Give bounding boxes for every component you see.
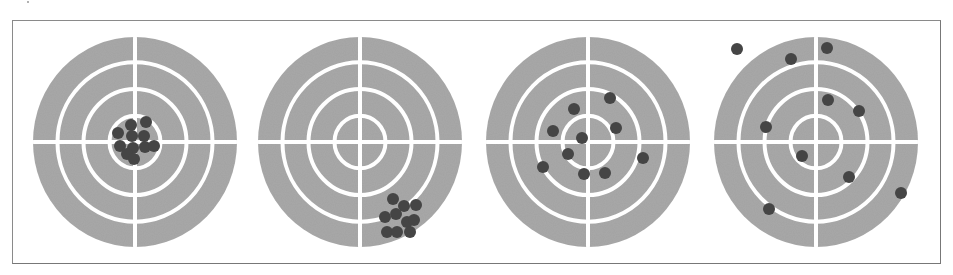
shot-hole — [760, 121, 772, 133]
shot-hole — [562, 148, 574, 160]
shot-hole — [390, 208, 402, 220]
shot-hole — [568, 103, 580, 115]
shot-hole — [547, 125, 559, 137]
shot-hole — [796, 150, 808, 162]
crosshair — [484, 35, 692, 249]
shot-hole — [599, 167, 611, 179]
crosshair — [256, 35, 464, 249]
target-4 — [712, 35, 920, 249]
shot-hole — [763, 203, 775, 215]
shot-hole — [408, 214, 420, 226]
shot-hole — [112, 127, 124, 139]
crosshair — [31, 35, 239, 249]
shot-hole — [785, 53, 797, 65]
shot-hole — [410, 199, 422, 211]
shot-hole — [821, 42, 833, 54]
shot-hole — [853, 105, 865, 117]
shot-hole — [576, 132, 588, 144]
shot-hole — [128, 153, 140, 165]
shot-hole — [731, 43, 743, 55]
shot-hole — [610, 122, 622, 134]
shot-hole — [537, 161, 549, 173]
shot-hole — [126, 130, 138, 142]
shot-hole — [604, 92, 616, 104]
shot-hole — [138, 130, 150, 142]
target-2 — [256, 35, 464, 249]
target-1 — [31, 35, 239, 249]
shot-hole — [578, 168, 590, 180]
shot-hole — [843, 171, 855, 183]
shot-hole — [379, 211, 391, 223]
shot-hole — [822, 94, 834, 106]
shot-hole — [391, 226, 403, 238]
crosshair — [712, 35, 920, 249]
shot-hole — [404, 226, 416, 238]
target-3 — [484, 35, 692, 249]
shot-hole — [637, 152, 649, 164]
shot-hole — [895, 187, 907, 199]
shot-hole — [125, 119, 137, 131]
shot-hole — [387, 193, 399, 205]
shot-hole — [140, 116, 152, 128]
targets-diagram — [0, 0, 953, 275]
shot-hole — [148, 140, 160, 152]
